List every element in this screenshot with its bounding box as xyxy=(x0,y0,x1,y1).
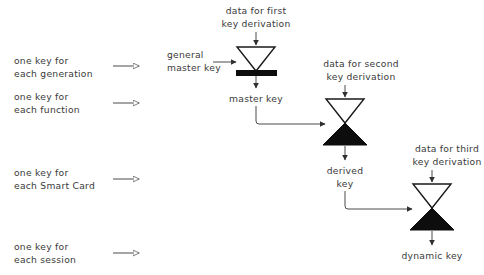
stage-2-input-label-line1: data for second xyxy=(323,58,399,69)
legend-smartcard-line2: each Smart Card xyxy=(14,180,95,191)
stage-3-open-triangle xyxy=(413,184,451,208)
legend-function-line2: each function xyxy=(14,104,80,115)
stage-1-side-label-line2: master key xyxy=(167,62,221,73)
legend-item-function: one key for each function xyxy=(14,91,139,115)
stage-3-group: data for third key derivation dynamic ke… xyxy=(401,143,481,261)
stage-2-solid-triangle xyxy=(323,123,367,145)
connector-stage2-to-stage3 xyxy=(345,191,412,209)
stage-1-input-label-line2: key derivation xyxy=(222,18,291,29)
stage-2-output-label-line1: derived xyxy=(327,165,364,176)
stage-3-solid-triangle xyxy=(410,208,454,230)
stage-1-output-label-line1: master key xyxy=(229,93,283,104)
key-derivation-diagram: one key for each generation one key for … xyxy=(0,0,484,275)
connector-stage1-to-stage2 xyxy=(256,106,325,124)
stage-1-funnel-open-triangle xyxy=(237,47,275,71)
stage-2-group: data for second key derivation derived k… xyxy=(323,58,399,189)
legend-function-line1: one key for xyxy=(14,91,68,102)
stage-3-input-label-line1: data for third xyxy=(415,143,479,154)
stage-1-solid-bar xyxy=(236,70,277,76)
legend-item-smartcard: one key for each Smart Card xyxy=(14,167,139,191)
legend-item-generation: one key for each generation xyxy=(14,55,139,79)
legend-item-session: one key for each session xyxy=(14,241,139,265)
stage-3-output-label-line1: dynamic key xyxy=(401,250,462,261)
stage-1-side-label-line1: general xyxy=(167,49,204,60)
stage-2-input-label-line2: key derivation xyxy=(327,71,396,82)
legend-generation-line1: one key for xyxy=(14,55,68,66)
legend-smartcard-line1: one key for xyxy=(14,167,68,178)
diagram-canvas: one key for each generation one key for … xyxy=(0,0,484,275)
stage-1-input-label-line1: data for first xyxy=(226,5,287,16)
stage-2-output-label-line2: key xyxy=(337,178,354,189)
legend-session-line2: each session xyxy=(14,254,76,265)
legend-generation-line2: each generation xyxy=(14,68,93,79)
legend-session-line1: one key for xyxy=(14,241,68,252)
stage-3-input-label-line2: key derivation xyxy=(413,156,482,167)
stage-2-open-triangle xyxy=(326,99,364,123)
stage-1-group: data for first key derivation general ma… xyxy=(167,5,290,104)
